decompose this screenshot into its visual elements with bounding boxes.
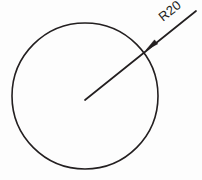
drawing-svg: R20 — [0, 0, 202, 180]
radius-dimension-label: R20 — [155, 0, 183, 24]
technical-drawing-canvas: R20 — [0, 0, 202, 180]
circle-outline — [12, 23, 158, 169]
leader-arrowhead-icon — [146, 40, 158, 50]
